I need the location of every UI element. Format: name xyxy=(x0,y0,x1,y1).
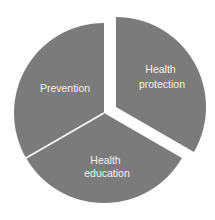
pie-diagram: Prevention Health protection Health educ… xyxy=(0,0,215,220)
label-prevention: Prevention xyxy=(40,82,90,94)
pie-svg: Prevention Health protection Health educ… xyxy=(0,0,215,220)
label-health-education: Health education xyxy=(84,154,130,179)
